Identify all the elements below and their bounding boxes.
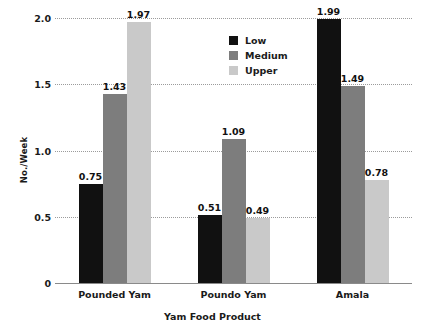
- bar-value-label: 1.43: [103, 81, 126, 92]
- legend-item-upper[interactable]: Upper: [229, 63, 288, 78]
- bar-chart: No./Week 0.751.431.970.511.090.491.991.4…: [0, 0, 425, 330]
- bar-low-0[interactable]: 0.75: [79, 184, 103, 283]
- bar-value-label: 1.09: [222, 126, 245, 137]
- gridline: [55, 18, 412, 19]
- category-label-0: Pounded Yam: [78, 289, 151, 300]
- y-axis-tick-label: 2.0: [11, 13, 51, 24]
- bar-value-label: 0.75: [79, 171, 102, 182]
- legend-swatch-icon: [229, 36, 238, 45]
- legend-swatch-icon: [229, 66, 238, 75]
- bar-medium-1[interactable]: 1.09: [222, 139, 246, 283]
- y-axis-label: No./Week: [19, 137, 29, 183]
- y-axis-tick-label: 1.0: [11, 145, 51, 156]
- legend-item-low[interactable]: Low: [229, 33, 288, 48]
- y-axis-tick-label: 1.5: [11, 79, 51, 90]
- y-axis-tick-label: 0.5: [11, 211, 51, 222]
- bar-value-label: 1.99: [317, 6, 340, 17]
- legend: LowMediumUpper: [229, 33, 288, 78]
- legend-swatch-icon: [229, 51, 238, 60]
- bar-value-label: 0.78: [365, 167, 388, 178]
- bar-low-1[interactable]: 0.51: [198, 215, 222, 283]
- bar-upper-2[interactable]: 0.78: [365, 180, 389, 283]
- bar-medium-0[interactable]: 1.43: [103, 94, 127, 283]
- bar-upper-0[interactable]: 1.97: [127, 22, 151, 283]
- category-label-1: Poundo Yam: [201, 289, 267, 300]
- bar-upper-1[interactable]: 0.49: [246, 218, 270, 283]
- legend-item-medium[interactable]: Medium: [229, 48, 288, 63]
- bar-value-label: 1.49: [341, 73, 364, 84]
- bar-low-2[interactable]: 1.99: [317, 19, 341, 283]
- y-axis-tick-label: 0: [11, 278, 51, 289]
- bar-medium-2[interactable]: 1.49: [341, 86, 365, 283]
- x-axis-label: Yam Food Product: [0, 311, 425, 322]
- legend-label: Low: [245, 35, 266, 46]
- legend-label: Medium: [245, 50, 288, 61]
- category-label-2: Amala: [336, 289, 369, 300]
- bar-value-label: 1.97: [127, 9, 150, 20]
- bar-value-label: 0.49: [246, 205, 269, 216]
- bar-value-label: 0.51: [198, 202, 221, 213]
- gridline: [55, 283, 412, 284]
- legend-label: Upper: [245, 65, 277, 76]
